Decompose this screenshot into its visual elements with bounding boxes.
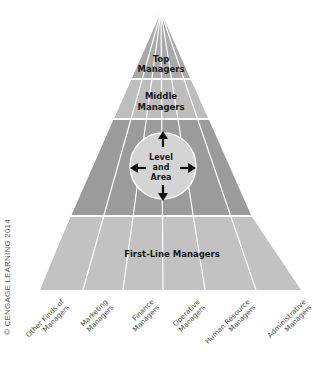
copyright-notice: © CENGAGE LEARNING 2014 xyxy=(3,219,12,335)
middle-managers-label: Middle xyxy=(145,91,177,101)
circle-label-and: and xyxy=(153,163,170,172)
circle-label-level: Level xyxy=(149,153,173,162)
first-line-managers-label: First-Line Managers xyxy=(124,249,220,259)
top-managers-label-2: Managers xyxy=(137,64,184,74)
middle-managers-label-2: Managers xyxy=(137,102,184,112)
circle-label-area: Area xyxy=(151,173,172,182)
top-managers-label: Top xyxy=(153,54,170,64)
